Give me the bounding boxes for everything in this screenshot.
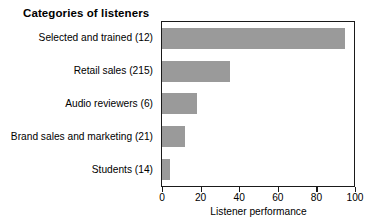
x-axis-tick-label: 20 xyxy=(195,192,206,204)
bar-retail-sales xyxy=(162,61,230,82)
bar-row xyxy=(162,55,355,88)
bar-row xyxy=(162,22,355,55)
bar-audio-reviewers xyxy=(162,93,197,114)
bar-row xyxy=(162,88,355,121)
chart-title: Categories of listeners xyxy=(23,6,149,20)
bar-brand-sales-and-marketing xyxy=(162,126,185,147)
x-axis-tick-label: 0 xyxy=(159,192,165,204)
y-axis-tick-label: Students (14) xyxy=(92,153,153,186)
x-axis-tick-label: 60 xyxy=(272,192,283,204)
bar-row xyxy=(162,153,355,186)
bar-students xyxy=(162,159,170,180)
y-axis-tick-label: Audio reviewers (6) xyxy=(65,88,153,121)
bars-layer xyxy=(162,22,355,186)
y-axis-tick-label: Retail sales (215) xyxy=(74,55,153,88)
bar-row xyxy=(162,120,355,153)
y-axis-tick-label: Brand sales and marketing (21) xyxy=(11,120,153,153)
bar-selected-and-trained xyxy=(162,28,345,49)
y-axis-category-labels: Selected and trained (12) Retail sales (… xyxy=(0,22,157,186)
x-axis-title: Listener performance xyxy=(162,206,355,218)
bar-chart-figure: Categories of listeners Selected and tra… xyxy=(0,0,379,224)
x-axis-tick-label: 80 xyxy=(311,192,322,204)
x-axis-tick-label: 40 xyxy=(234,192,245,204)
x-axis-tick-labels: 020406080100 xyxy=(162,192,355,206)
x-axis-tick-label: 100 xyxy=(347,192,364,204)
y-axis-tick-label: Selected and trained (12) xyxy=(39,22,153,55)
